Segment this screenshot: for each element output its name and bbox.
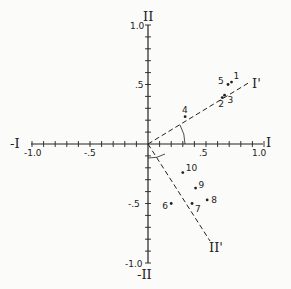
x-axis-label: I — [266, 135, 271, 150]
data-point — [227, 83, 230, 86]
data-point-label: 4 — [182, 105, 188, 115]
rotated-axis-II-prime — [148, 144, 210, 241]
rotated-axis-I-prime — [148, 82, 250, 144]
factor-rotation-chart: I -I II -II I' II' -1.0 -.5 .5 1.0 1.0 .… — [0, 0, 291, 289]
rotated-axis-I-prime-label: I' — [252, 76, 261, 91]
data-point — [184, 115, 187, 118]
data-point-label: 10 — [186, 163, 198, 173]
data-points: 12345678910 — [162, 71, 239, 213]
y-tick-label: -.5 — [128, 199, 140, 209]
rotated-axis-II-prime-label: II' — [209, 240, 223, 255]
data-point — [230, 81, 233, 84]
x-tick-label: .5 — [199, 148, 208, 158]
data-point-label: 1 — [234, 71, 240, 81]
y-axis-label: II — [143, 9, 153, 24]
data-point — [194, 187, 197, 190]
data-point — [191, 202, 194, 205]
data-point — [223, 94, 226, 97]
data-point-label: 9 — [199, 180, 205, 190]
y-tick-label: .5 — [135, 80, 144, 90]
data-point-label: 3 — [228, 95, 234, 105]
x-tick-label: -1.0 — [24, 148, 42, 158]
x-tick-label: 1.0 — [252, 148, 267, 158]
x-tick-label: -.5 — [84, 148, 96, 158]
data-point — [206, 199, 209, 202]
y-neg-axis-label: -II — [137, 267, 152, 282]
data-point — [170, 202, 173, 205]
x-neg-axis-label: -I — [10, 136, 20, 151]
data-point-label: 7 — [195, 204, 201, 214]
data-point — [181, 171, 184, 174]
data-point-label: 6 — [162, 201, 168, 211]
data-point-label: 8 — [211, 195, 217, 205]
y-tick-label: -1.0 — [125, 259, 143, 269]
data-point-label: 5 — [218, 76, 224, 86]
data-point-label: 2 — [218, 99, 224, 109]
y-tick-label: 1.0 — [130, 21, 145, 31]
